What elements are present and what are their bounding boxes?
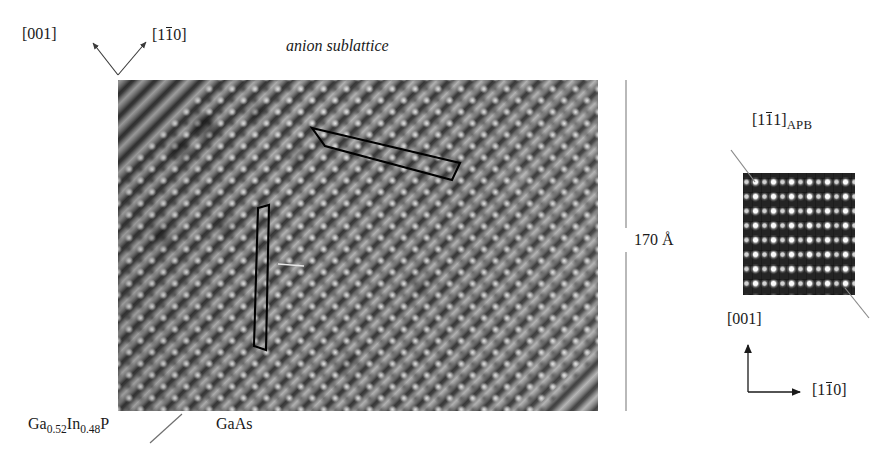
overbar-group-apb: 1 bbox=[765, 110, 773, 129]
arrow-110-main bbox=[118, 42, 146, 75]
label-inset-axis-001: [001] bbox=[727, 310, 762, 328]
label-material-gaas: GaAs bbox=[216, 415, 252, 433]
label-direction-110-main: [110] bbox=[152, 25, 187, 44]
leader-inset-lower bbox=[845, 288, 869, 318]
label-direction-001-main: [001] bbox=[22, 25, 57, 43]
arrow-001-main bbox=[93, 43, 118, 75]
figure-root: [001] [110] anion sublattice 170 Å Ga0.5… bbox=[0, 0, 895, 463]
annotation-layer bbox=[0, 0, 895, 463]
label-apb-direction: [111]APB bbox=[752, 110, 812, 133]
leader-apb-upper bbox=[731, 150, 755, 182]
overbar-group-inset: 1 bbox=[825, 380, 833, 399]
interface-leader-line bbox=[150, 414, 182, 443]
label-scale-bar: 170 Å bbox=[632, 230, 676, 250]
label-anion-sublattice: anion sublattice bbox=[286, 37, 389, 55]
label-inset-axis-110: [110] bbox=[812, 380, 847, 399]
overbar-group-main: 1 bbox=[165, 25, 173, 44]
label-material-gainp: Ga0.52In0.48P bbox=[28, 415, 109, 435]
